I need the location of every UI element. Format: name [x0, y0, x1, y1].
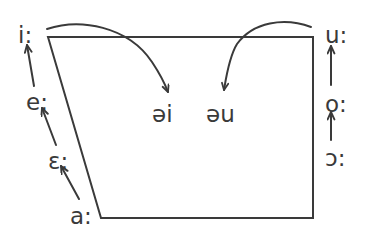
diphthong-label-eu: əu	[206, 103, 235, 126]
curve-i-to-schwa-i	[47, 24, 168, 92]
vowel-label-epsilon: ɛ:	[48, 150, 68, 173]
arrow-e-to-i	[27, 45, 34, 86]
curve-u-to-schwa-u	[224, 22, 311, 90]
vowel-label-o: o:	[325, 93, 347, 116]
vowel-label-e: e:	[26, 91, 48, 114]
vowel-chart-diagram: i: e: ɛ: a: u: o: ɔ: əi əu	[0, 0, 367, 245]
vowel-label-a: a:	[70, 205, 92, 228]
vowel-chart-canvas	[0, 0, 367, 245]
curve-i-to-schwa-i-path	[47, 24, 168, 92]
vowel-label-i: i:	[18, 24, 32, 47]
vowel-label-open-o: ɔ:	[325, 147, 345, 170]
vowel-quadrilateral	[48, 37, 313, 218]
vowel-label-u: u:	[325, 24, 347, 47]
trapezoid-outline	[48, 37, 313, 218]
curve-u-to-schwa-u-path	[224, 22, 311, 90]
diphthong-label-ei: əi	[152, 103, 173, 126]
left-axis-arrows	[27, 45, 79, 199]
